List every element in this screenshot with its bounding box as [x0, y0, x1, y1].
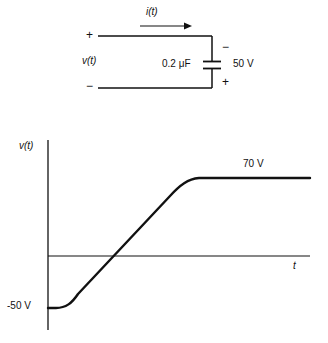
terminal-plus-label: + — [86, 29, 93, 41]
circuit-diagram — [98, 22, 221, 88]
source-voltage-label: v(t) — [82, 56, 96, 66]
waveform-plot — [48, 140, 310, 330]
waveform-curve — [48, 178, 310, 308]
terminal-minus-label: − — [86, 80, 93, 92]
figure-svg — [0, 0, 328, 343]
x-axis-label: t — [293, 261, 296, 271]
capacitor-plus-label: + — [222, 76, 229, 88]
current-arrow-icon — [140, 22, 192, 29]
figure-container: + − v(t) i(t) 0.2 μF − + 50 V v(t) t -50… — [0, 0, 328, 343]
initial-value-label: -50 V — [7, 301, 31, 311]
capacitor-voltage-label: 50 V — [233, 59, 254, 69]
y-axis-label: v(t) — [19, 141, 33, 151]
capacitance-value-label: 0.2 μF — [162, 59, 191, 69]
capacitor-minus-label: − — [222, 41, 229, 53]
current-label: i(t) — [146, 7, 158, 17]
final-value-label: 70 V — [243, 159, 264, 169]
